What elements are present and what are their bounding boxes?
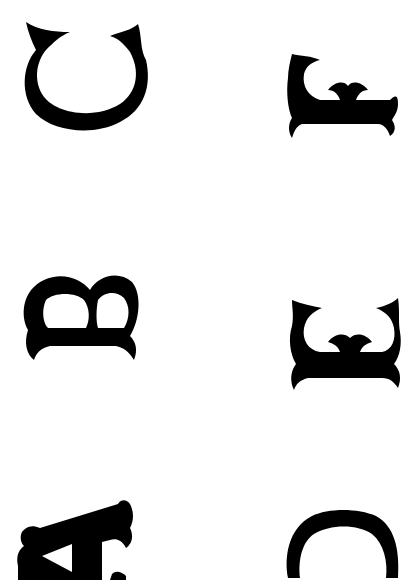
letter-b: B bbox=[20, 270, 140, 370]
letter-c: C bbox=[24, 20, 144, 130]
letter-f: F bbox=[288, 52, 398, 142]
letter-e: E bbox=[290, 298, 400, 390]
letter-d: D bbox=[288, 508, 398, 578]
letter-a: A bbox=[18, 500, 133, 580]
